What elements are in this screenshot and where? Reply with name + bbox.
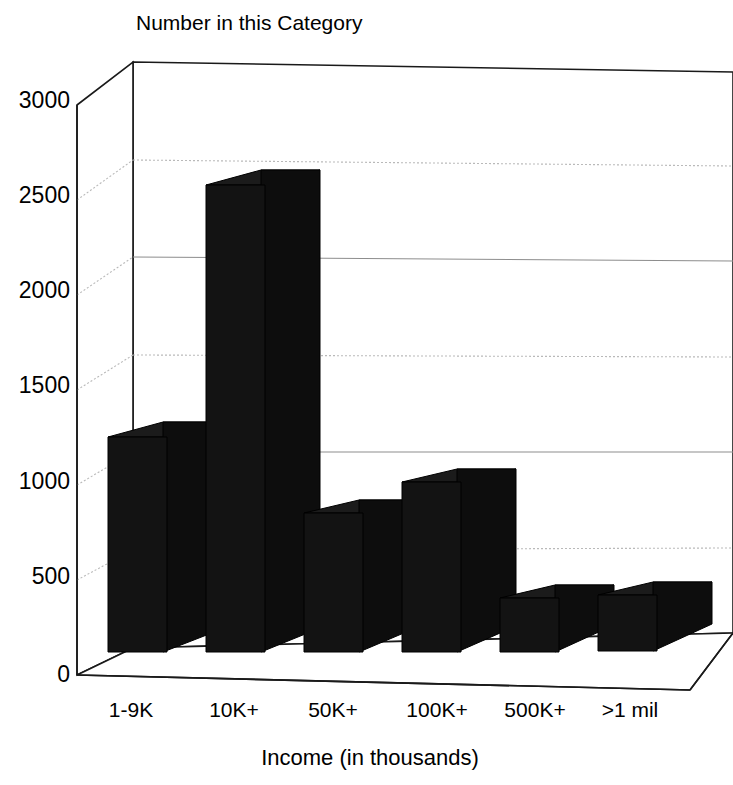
x-tick-label-5: >1 mil xyxy=(602,698,659,721)
bar-chart-3d: Number in this Category 3000 2500 2000 1… xyxy=(0,0,733,785)
chart-title: Number in this Category xyxy=(136,11,363,34)
y-axis-tick-labels: 3000 2500 2000 1500 1000 500 0 xyxy=(19,87,70,687)
y-tick-label-2000: 2000 xyxy=(19,277,70,303)
y-tick-label-1000: 1000 xyxy=(19,468,70,494)
chart-container: Number in this Category 3000 2500 2000 1… xyxy=(0,0,733,785)
x-tick-label-0: 1-9K xyxy=(109,698,153,721)
y-tick-label-0: 0 xyxy=(57,661,70,687)
x-tick-label-1: 10K+ xyxy=(209,698,259,721)
x-tick-label-4: 500K+ xyxy=(504,698,565,721)
x-axis-tick-labels: 1-9K 10K+ 50K+ 100K+ 500K+ >1 mil xyxy=(109,698,658,721)
y-tick-label-500: 500 xyxy=(32,563,70,589)
y-tick-label-2500: 2500 xyxy=(19,182,70,208)
bar-10K xyxy=(206,170,320,652)
bar-1-9K xyxy=(108,422,222,652)
x-tick-label-2: 50K+ xyxy=(308,698,358,721)
x-axis-label: Income (in thousands) xyxy=(261,745,479,770)
bar-100K xyxy=(402,469,516,652)
y-tick-label-3000: 3000 xyxy=(19,87,70,113)
x-tick-label-3: 100K+ xyxy=(406,698,467,721)
y-tick-label-1500: 1500 xyxy=(19,372,70,398)
bar-50K xyxy=(304,500,418,652)
